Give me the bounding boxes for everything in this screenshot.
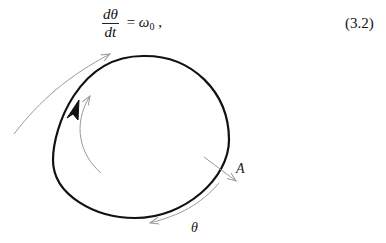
inner-trajectory-arrow — [80, 96, 101, 173]
outer-trajectory-arrow — [14, 54, 110, 134]
amplitude-label: A — [235, 161, 245, 176]
limit-cycle-figure: A θ — [0, 0, 386, 243]
phase-label: θ — [191, 220, 198, 235]
limit-cycle-loop — [53, 56, 229, 218]
amplitude-arrow — [204, 157, 236, 181]
phase-arrow — [150, 183, 219, 223]
